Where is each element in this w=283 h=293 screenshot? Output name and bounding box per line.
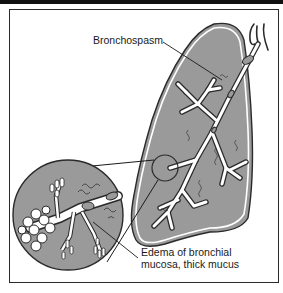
lung-shape (131, 23, 252, 246)
edema-label-line1: Edema of bronchial (141, 246, 239, 258)
magnified-bronchiole (13, 160, 123, 270)
bronchospasm-label: Bronchospasm (93, 34, 163, 46)
edema-label: Edema of bronchial mucosa, thick mucus (141, 246, 239, 270)
edema-label-line2: mucosa, thick mucus (141, 258, 239, 270)
